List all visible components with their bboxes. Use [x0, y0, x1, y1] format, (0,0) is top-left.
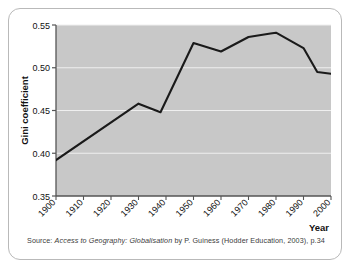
y-tick-label: 0.40: [32, 149, 50, 159]
figure-card: 0.55 0.50 0.45 0.40 0.35 1900 1910 1920 …: [8, 8, 342, 260]
y-tick-label: 0.55: [32, 21, 50, 31]
x-tick-label: 1970: [229, 197, 250, 218]
source-rest: by P. Guiness (Hodder Education, 2003), …: [174, 236, 325, 245]
x-tick-label: 1910: [64, 197, 85, 218]
source-caption: Source: Access to Geography: Globalisati…: [27, 237, 331, 246]
x-tick-label: 2000: [311, 197, 332, 218]
y-tick-label: 0.50: [32, 63, 50, 73]
source-prefix: Source:: [27, 236, 52, 245]
x-tick-label: 1960: [201, 197, 222, 218]
source-title: Access to Geography: Globalisation: [55, 236, 173, 245]
gini-coefficient-line-chart: 0.55 0.50 0.45 0.40 0.35 1900 1910 1920 …: [9, 9, 343, 261]
x-axis-title: Year: [309, 222, 329, 233]
y-tick-label: 0.45: [32, 106, 50, 116]
x-tick-label: 1940: [146, 197, 167, 218]
x-tick-label: 1920: [91, 197, 112, 218]
x-tick-label: 1930: [119, 197, 140, 218]
x-axis: [56, 196, 331, 200]
x-tick-labels: 1900 1910 1920 1930 1940 1950 1960 1970 …: [36, 197, 332, 218]
x-tick-label: 1990: [284, 197, 305, 218]
x-tick-label: 1980: [256, 197, 277, 218]
y-axis-title: Gini coefficient: [19, 75, 30, 144]
y-tick-labels: 0.55 0.50 0.45 0.40 0.35: [32, 21, 50, 202]
x-tick-label: 1950: [174, 197, 195, 218]
y-axis: [52, 25, 56, 196]
